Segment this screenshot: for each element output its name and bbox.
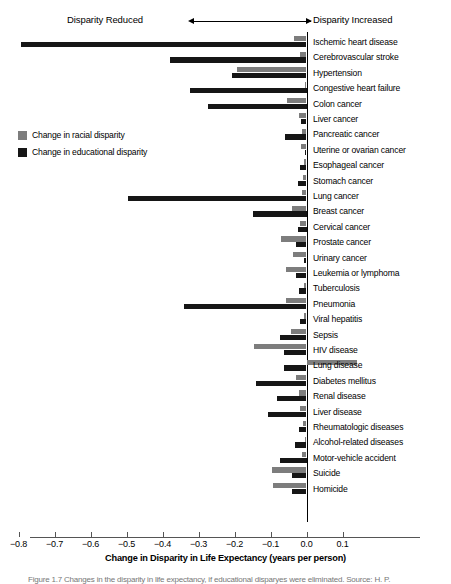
chart-row: Rheumatologic diseases (0, 420, 451, 435)
category-label: Sepsis (313, 330, 338, 340)
category-label: Pancreatic cancer (313, 129, 379, 139)
category-label: Renal disease (313, 391, 366, 401)
bar-gray (302, 452, 307, 457)
disparity-reduced-label: Disparity Reduced (67, 14, 143, 25)
chart-row: Leukemia or lymphoma (0, 266, 451, 281)
category-label: Congestive heart failure (313, 83, 400, 93)
bar-gray (299, 390, 307, 395)
chart-row: Tuberculosis (0, 281, 451, 296)
legend-label: Change in racial disparity (32, 130, 125, 140)
x-axis-label: Change in Disparity in Life Expectancy (… (0, 553, 451, 563)
x-axis-tick (163, 532, 164, 537)
bar-gray (300, 406, 306, 411)
bar-gray (292, 206, 306, 211)
category-label: HIV disease (313, 345, 358, 355)
bar-black (298, 181, 307, 186)
bar-black (292, 489, 306, 494)
bar-gray (305, 437, 306, 442)
bar-gray (304, 283, 307, 288)
chart-row: Motor-vehicle accident (0, 451, 451, 466)
chart-legend: Change in racial disparityChange in educ… (18, 130, 198, 164)
x-axis-tick-label: 0.0 (287, 539, 327, 549)
bar-gray (305, 82, 306, 87)
bar-black (285, 134, 307, 139)
x-axis-tick (271, 532, 272, 537)
x-axis-tick-label: 0.1 (323, 539, 363, 549)
legend-item: Change in racial disparity (18, 130, 198, 144)
bar-black (190, 88, 307, 93)
bar-black (21, 42, 306, 47)
chart-row: Prostate cancer (0, 235, 451, 250)
bar-black (295, 442, 306, 447)
bar-gray (303, 421, 307, 426)
bar-black (208, 104, 307, 109)
bar-black (296, 273, 306, 278)
disparity-direction-annotation: Disparity Reduced Disparity Increased (0, 13, 451, 31)
x-axis-tick-label: −0.6 (71, 539, 111, 549)
bar-black (284, 365, 306, 370)
legend-label: Change in educational disparity (32, 147, 147, 157)
arrow-right-icon (306, 18, 312, 24)
category-label: Lung disease (313, 360, 362, 370)
bar-gray (291, 329, 307, 334)
figure-caption: Figure 1.7 Changes in the disparity in l… (28, 575, 448, 584)
bar-gray (300, 52, 306, 57)
bar-gray (303, 175, 306, 180)
bar-gray (302, 129, 306, 134)
x-axis-tick (127, 532, 128, 537)
legend-swatch (18, 148, 27, 157)
bar-black (304, 258, 307, 263)
category-label: Urinary cancer (313, 253, 367, 263)
disparity-increased-label: Disparity Increased (313, 14, 392, 25)
category-label: Tuberculosis (313, 283, 360, 293)
category-label: Hypertension (313, 68, 362, 78)
bar-gray (299, 113, 307, 118)
bar-black (232, 73, 307, 78)
bar-black (292, 473, 307, 478)
category-label: Leukemia or lymphoma (313, 268, 399, 278)
bar-black (305, 150, 307, 155)
chart-row: Urinary cancer (0, 251, 451, 266)
bar-gray (237, 67, 306, 72)
chart-row: Ischemic heart disease (0, 35, 451, 50)
chart-row: Stomach cancer (0, 174, 451, 189)
bar-black (296, 242, 306, 247)
category-label: Liver cancer (313, 114, 358, 124)
chart-row: Viral hepatitis (0, 312, 451, 327)
bar-black (280, 458, 307, 463)
bar-black (268, 412, 307, 417)
x-axis-line (30, 537, 420, 538)
category-label: Pneumonia (313, 299, 355, 309)
chart-row: Congestive heart failure (0, 81, 451, 96)
x-axis-tick-label: −0.4 (143, 539, 183, 549)
bar-black (280, 335, 306, 340)
annotation-line (193, 21, 306, 22)
category-label: Breast cancer (313, 206, 364, 216)
chart-plot-area: Ischemic heart diseaseCerebrovascular st… (0, 32, 451, 532)
x-axis-tick (307, 532, 308, 537)
category-label: Colon cancer (313, 99, 362, 109)
bar-black (128, 196, 307, 201)
bar-gray (287, 98, 306, 103)
category-label: Cervical cancer (313, 222, 370, 232)
bar-gray (301, 144, 306, 149)
category-label: Uterine or ovarian cancer (313, 145, 406, 155)
bar-gray (304, 313, 307, 318)
chart-row: Homicide (0, 482, 451, 497)
category-label: Liver disease (313, 407, 362, 417)
chart-row: Lung disease (0, 358, 451, 373)
category-label: Motor-vehicle accident (313, 453, 396, 463)
category-label: Stomach cancer (313, 176, 373, 186)
legend-item: Change in educational disparity (18, 147, 198, 161)
bar-gray (294, 36, 306, 41)
x-axis-tick-label: −0.2 (215, 539, 255, 549)
bar-gray (286, 267, 306, 272)
bar-gray (254, 344, 306, 349)
chart-row: Sepsis (0, 328, 451, 343)
bar-gray (272, 467, 306, 472)
x-axis-tick (343, 532, 344, 537)
bar-gray (296, 375, 307, 380)
x-axis-tick-label: −0.5 (107, 539, 147, 549)
bar-black (300, 165, 307, 170)
